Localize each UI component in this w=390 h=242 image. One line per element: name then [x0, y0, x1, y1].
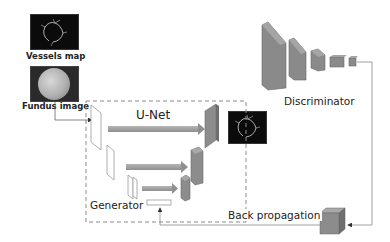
encoder-layer-3 — [128, 175, 137, 199]
bottleneck-layer — [147, 200, 171, 205]
generator-label: Generator — [90, 199, 143, 211]
back-propagation-label: Back propagation — [228, 209, 322, 221]
skip-arrow-3 — [142, 183, 178, 194]
discriminator-layer-2 — [289, 38, 306, 80]
loss-cube — [320, 208, 345, 234]
encoder-layer-1 — [91, 105, 101, 150]
input-arrow — [55, 102, 92, 120]
decoder-layer-2 — [191, 147, 203, 185]
discriminator-layer-1 — [262, 22, 286, 90]
decoder-layer-3 — [181, 175, 190, 201]
discriminator-layer-3 — [311, 49, 325, 71]
skip-arrow-2 — [126, 161, 188, 173]
discriminator-layer-5 — [349, 56, 358, 66]
unet-title: U-Net — [136, 108, 170, 122]
encoder-layer-2 — [107, 145, 114, 180]
decoder-layer-1 — [205, 104, 219, 148]
discriminator-output-line — [348, 62, 372, 225]
diagram-canvas — [0, 0, 390, 242]
discriminator-layer-4 — [330, 55, 347, 67]
skip-arrow-1 — [108, 123, 205, 135]
discriminator-label: Discriminator — [284, 95, 355, 107]
